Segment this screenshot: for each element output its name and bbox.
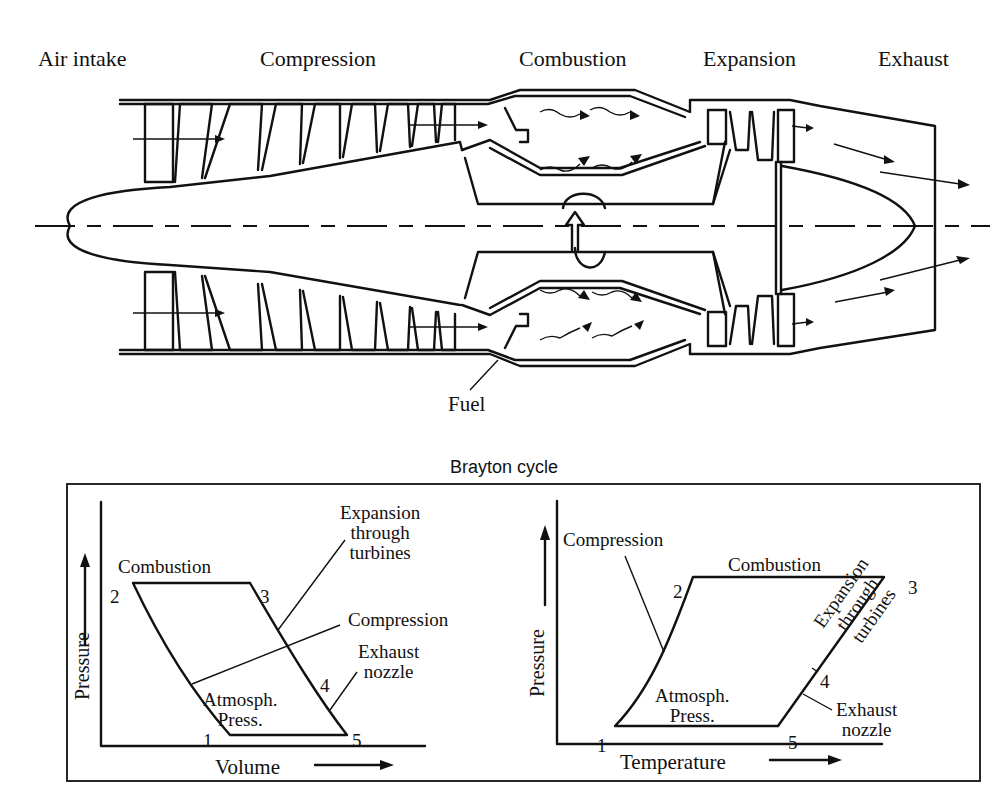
pt-exhaust-label: Exhaust nozzle (836, 700, 897, 740)
casing-top (120, 90, 935, 226)
pv-expansion-leader (278, 540, 345, 630)
turbojet-engine-diagram (0, 0, 1007, 807)
pt-atmospheric-label: Atmosph. Press. (655, 686, 729, 726)
pv-x-axis-label: Volume (215, 757, 280, 778)
pt-x-axis-label: Temperature (620, 752, 726, 773)
label-fuel: Fuel (448, 394, 485, 415)
pt-y-axis-label: Pressure (527, 629, 547, 697)
pt-point-4: 4 (820, 672, 830, 691)
turbine-stages (708, 110, 794, 346)
compressor-hub (68, 142, 462, 305)
pv-compression-label: Compression (348, 610, 448, 629)
exhaust-flow-arrows (792, 124, 970, 326)
pv-compression-leader (192, 625, 340, 684)
label-exhaust: Exhaust (878, 48, 949, 70)
pt-point-1: 1 (597, 736, 607, 755)
compressor-blades-top (175, 104, 455, 182)
label-expansion: Expansion (703, 48, 796, 70)
pv-point-4: 4 (320, 676, 330, 695)
label-combustion: Combustion (519, 48, 627, 70)
pv-atmospheric-label: Atmosph. Press. (203, 690, 277, 730)
pt-compression-leader (625, 556, 664, 652)
pt-point-3: 3 (908, 578, 918, 597)
pt-compression-label: Compression (563, 530, 663, 549)
pv-y-axis-label: Pressure (72, 632, 92, 700)
pt-combustion-label: Combustion (728, 555, 821, 574)
brayton-cycle-title: Brayton cycle (450, 458, 558, 476)
fuel-pointer (470, 360, 498, 390)
inlet-vane-bottom (145, 272, 173, 350)
label-air-intake: Air intake (38, 48, 127, 70)
pt-point-2: 2 (673, 582, 683, 601)
pv-expansion-label: Expansion through turbines (340, 503, 420, 563)
pv-exhaust-leader (330, 672, 357, 710)
inlet-vane-top (145, 104, 173, 182)
pv-exhaust-label: Exhaust nozzle (358, 642, 419, 682)
pt-exhaust-leader (803, 694, 832, 710)
pv-point-1: 1 (203, 731, 213, 750)
pv-combustion-label: Combustion (118, 557, 211, 576)
pv-point-2: 2 (110, 587, 120, 606)
tail-cone (782, 166, 915, 290)
pt-point-5: 5 (788, 733, 798, 752)
pv-point-5: 5 (352, 731, 362, 750)
pv-point-3: 3 (260, 587, 270, 606)
label-compression: Compression (260, 48, 376, 70)
combustion-chamber (462, 107, 725, 348)
